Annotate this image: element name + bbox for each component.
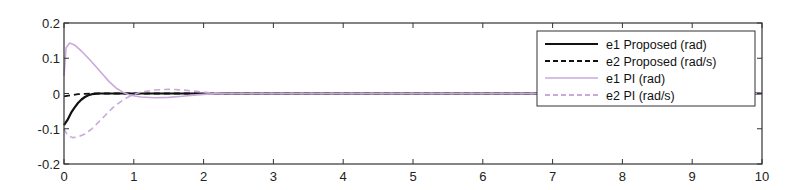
y-tick-label: 0 [53, 87, 60, 102]
x-tick-label: 3 [270, 169, 277, 184]
y-tick-label: 0.1 [42, 51, 60, 66]
x-tick-label: 1 [130, 169, 137, 184]
legend: e1 Proposed (rad)e2 Proposed (rad/s)e1 P… [537, 31, 755, 106]
y-tick-label: -0.2 [38, 157, 60, 172]
y-tick-label: 0.2 [42, 16, 60, 31]
line-chart: 012345678910 0.20.10-0.1-0.2 e1 Proposed… [0, 0, 803, 190]
legend-label: e1 Proposed (rad) [606, 38, 707, 52]
x-tick-label: 8 [619, 169, 626, 184]
x-tick-label: 0 [60, 169, 67, 184]
legend-label: e2 Proposed (rad/s) [606, 55, 716, 69]
x-tick-label: 7 [549, 169, 556, 184]
x-tick-label: 10 [755, 169, 769, 184]
x-tick-label: 5 [409, 169, 416, 184]
legend-label: e1 PI (rad) [606, 72, 665, 86]
x-tick-label: 9 [689, 169, 696, 184]
y-tick-label: -0.1 [38, 122, 60, 137]
x-tick-label: 4 [340, 169, 347, 184]
legend-label: e2 PI (rad/s) [606, 89, 675, 103]
x-tick-label: 2 [200, 169, 207, 184]
x-tick-label: 6 [479, 169, 486, 184]
